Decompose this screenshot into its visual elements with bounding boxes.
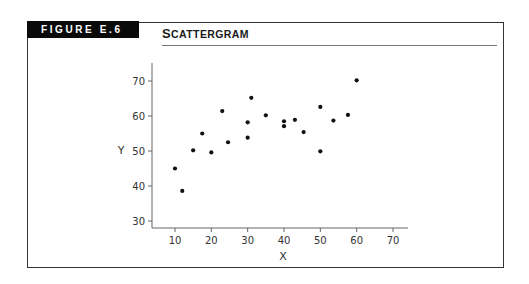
y-tick-label: 50 [132,146,145,157]
y-tick-label: 40 [132,181,145,192]
scatter-plot: 304050607010203040506070 X Y [0,0,529,284]
data-point [220,109,224,113]
data-point [246,136,250,140]
x-tick-label: 60 [350,235,363,246]
x-tick-label: 20 [205,235,218,246]
data-point [293,118,297,122]
data-point [200,131,204,135]
axes: 304050607010203040506070 [132,63,408,246]
data-point [331,118,335,122]
y-tick-label: 70 [132,76,145,87]
data-point [191,148,195,152]
data-point [282,119,286,123]
data-point [302,130,306,134]
data-point [355,78,359,82]
data-point [180,189,184,193]
data-point [264,113,268,117]
x-tick-label: 40 [278,235,291,246]
data-point [318,105,322,109]
x-tick-label: 70 [387,235,400,246]
data-point [246,120,250,124]
data-point [226,140,230,144]
data-point [209,150,213,154]
x-tick-label: 50 [314,235,327,246]
data-point [249,96,253,100]
data-point [173,166,177,170]
data-point [282,124,286,128]
x-tick-label: 10 [169,235,182,246]
y-axis-label: Y [117,144,125,157]
data-points [173,78,359,193]
data-point [318,149,322,153]
data-point [346,113,350,117]
x-tick-label: 30 [241,235,254,246]
y-tick-label: 60 [132,111,145,122]
x-axis-label: X [279,250,287,263]
y-tick-label: 30 [132,216,145,227]
